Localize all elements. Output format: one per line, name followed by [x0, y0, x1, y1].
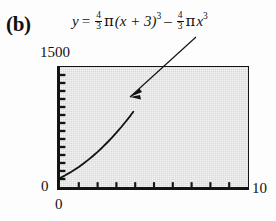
equation-minus: – [164, 13, 172, 30]
fraction-denominator: 3 [95, 21, 102, 32]
fraction-numerator: 4 [177, 11, 184, 21]
pi-symbol-first: π [104, 12, 114, 30]
x-axis-max-label: 10 [252, 180, 267, 197]
data-curve [60, 112, 133, 178]
x-axis-ticks [79, 182, 229, 187]
equation-term2-exponent: 3 [203, 11, 208, 21]
plot-area [57, 66, 249, 190]
plot-canvas [60, 67, 248, 187]
equation-term1-exponent: 3 [157, 11, 162, 21]
fraction-denominator: 3 [177, 21, 184, 32]
equation-lhs: y [72, 13, 79, 30]
fraction-four-thirds-first: 4 3 [95, 11, 102, 31]
panel-label: (b) [6, 12, 31, 37]
pi-symbol-second: π [186, 12, 196, 30]
x-axis-min-label: 0 [55, 196, 63, 213]
y-axis-ticks [60, 75, 65, 179]
equation-label: y = 4 3 π (x + 3) 3 – 4 3 π x 3 [72, 11, 208, 31]
y-axis-max-label: 1500 [40, 44, 70, 61]
fraction-numerator: 4 [95, 11, 102, 21]
fraction-four-thirds-second: 4 3 [177, 11, 184, 31]
y-axis-min-label: 0 [41, 178, 49, 195]
figure-panel-b: (b) y = 4 3 π (x + 3) 3 – 4 3 π x 3 1500… [0, 0, 276, 221]
equation-term1-base: (x + 3) [115, 13, 157, 30]
equation-term2-base: x [196, 13, 203, 30]
equation-equals: = [82, 13, 90, 30]
